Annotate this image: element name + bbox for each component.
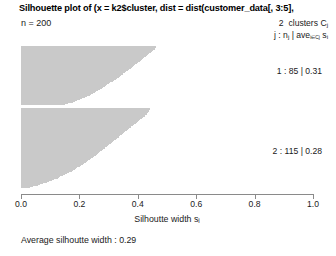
legend-formula-suffix-subscript: i bbox=[327, 33, 328, 40]
x-axis-tick-label: 0.4 bbox=[132, 199, 144, 209]
x-axis-tick-label: 1.0 bbox=[307, 199, 319, 209]
x-axis-title-subscript: i bbox=[198, 217, 199, 224]
x-axis-title-text: Silhoutte width s bbox=[134, 214, 198, 224]
silhouette-bar bbox=[21, 187, 26, 188]
silhouette-plot: Silhouette plot of (x = k2$cluster, dist… bbox=[0, 0, 336, 256]
legend-cluster-count-value: 2 bbox=[279, 18, 284, 28]
legend-cluster-subscript: j bbox=[327, 21, 328, 28]
x-axis-title: Silhoutte width si bbox=[134, 214, 199, 224]
sample-size-label: n = 200 bbox=[21, 18, 51, 28]
legend-cluster-count-text: clusters C bbox=[288, 18, 326, 28]
cluster-summary-label-2: 2 : 115 | 0.28 bbox=[273, 146, 322, 156]
legend-formula-prefix: j : n bbox=[274, 30, 288, 40]
x-axis-line bbox=[21, 194, 313, 195]
average-silhouette-width-label: Average silhoutte width : 0.29 bbox=[21, 235, 136, 245]
legend-formula-suffix: s bbox=[320, 30, 327, 40]
legend-formula: j : nj | avei∈Cj si bbox=[274, 30, 328, 40]
x-axis-tick-label: 0.0 bbox=[15, 199, 27, 209]
silhouette-bar bbox=[21, 104, 61, 105]
plot-title: Silhouette plot of (x = k2$cluster, dist… bbox=[19, 3, 294, 13]
x-axis-tick-label: 0.6 bbox=[190, 199, 202, 209]
x-axis-tick-label: 0.2 bbox=[73, 199, 85, 209]
cluster-summary-label-1: 1 : 85 | 0.31 bbox=[277, 66, 322, 76]
legend-formula-mid-subscript: i∈Cj bbox=[310, 34, 320, 40]
legend-cluster-count: 2 clusters Cj bbox=[279, 18, 328, 28]
x-axis-tick-label: 0.8 bbox=[249, 199, 261, 209]
legend-formula-mid: | ave bbox=[289, 30, 310, 40]
